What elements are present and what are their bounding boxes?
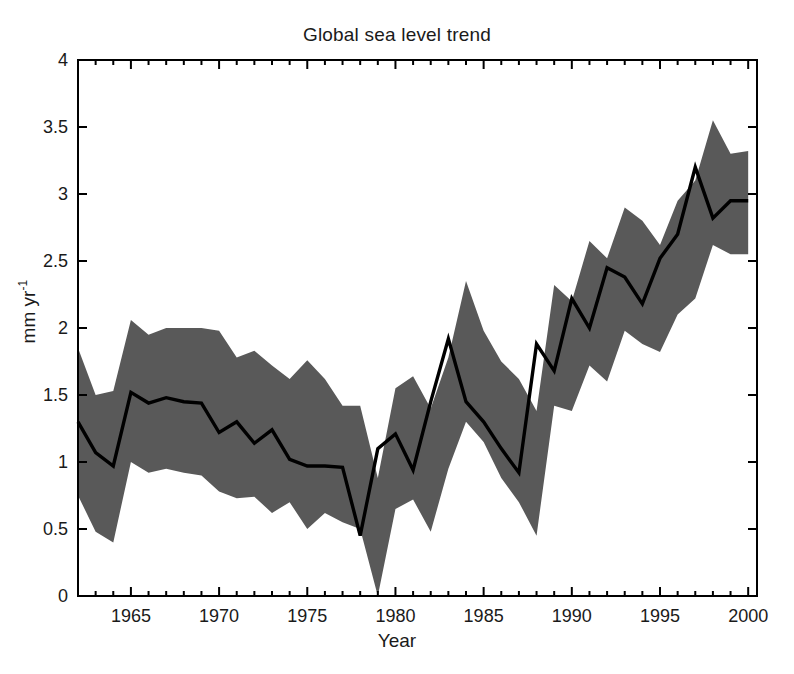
x-tick-label: 1975 [287,606,327,626]
y-tick-label: 0.5 [43,519,68,539]
y-tick-label: 1 [58,452,68,472]
x-tick-label: 1995 [640,606,680,626]
y-tick-label: 0 [58,586,68,606]
chart-figure: Global sea level trend mm yr-1 Year 1965… [0,0,794,674]
uncertainty-band [78,120,748,596]
x-tick-label: 2000 [728,606,768,626]
x-tick-label: 1965 [111,606,151,626]
x-tick-label: 1990 [552,606,592,626]
y-tick-label: 2 [58,318,68,338]
y-tick-label: 1.5 [43,385,68,405]
y-tick-label: 2.5 [43,251,68,271]
uncertainty-band-shape [78,120,748,596]
plot-area: 1965197019751980198519901995200000.511.5… [0,0,794,674]
y-tick-label: 3.5 [43,117,68,137]
y-tick-label: 4 [58,50,68,70]
x-tick-label: 1980 [375,606,415,626]
x-tick-label: 1985 [464,606,504,626]
x-tick-label: 1970 [199,606,239,626]
y-tick-label: 3 [58,184,68,204]
